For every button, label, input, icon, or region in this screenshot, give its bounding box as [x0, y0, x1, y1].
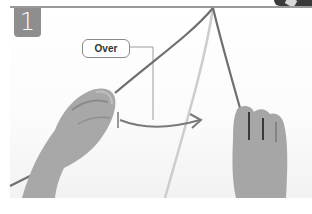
illustration-art: [0, 0, 312, 214]
cord-center-light: [165, 8, 213, 198]
cord-right: [213, 8, 240, 108]
step-number-badge: 1: [14, 8, 41, 37]
left-hand: [22, 88, 115, 198]
over-callout-label: Over: [82, 39, 130, 58]
callout-leader-line: [128, 47, 153, 120]
right-hand: [232, 106, 287, 198]
instruction-figure: 1 Over: [0, 0, 312, 214]
